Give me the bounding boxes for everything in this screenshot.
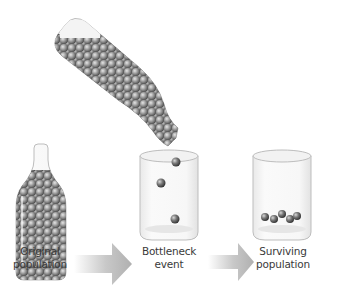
label-line: Surviving (243, 245, 323, 258)
ball-icon (172, 158, 181, 167)
bottleneck-event-label: Bottleneck event (129, 245, 209, 271)
label-line: Bottleneck (129, 245, 209, 258)
tilted-bottle-icon (50, 18, 185, 149)
label-line: population (0, 258, 80, 271)
label-line: Original (0, 245, 80, 258)
ball-icon (278, 210, 286, 218)
ball-icon (286, 215, 294, 223)
ball-icon (157, 179, 166, 188)
bottleneck-diagram: Original population Bottleneck event Sur… (0, 0, 337, 291)
label-line: population (243, 258, 323, 271)
surviving-glass-icon (253, 150, 311, 240)
bottleneck-glass-icon (140, 150, 198, 240)
surviving-population-label: Surviving population (243, 245, 323, 271)
label-line: event (129, 258, 209, 271)
ball-icon (293, 212, 301, 220)
ball-icon (171, 215, 180, 224)
ball-icon (261, 213, 269, 221)
ball-icon (270, 215, 278, 223)
right-arrow-icon (74, 243, 132, 285)
original-population-label: Original population (0, 245, 80, 271)
